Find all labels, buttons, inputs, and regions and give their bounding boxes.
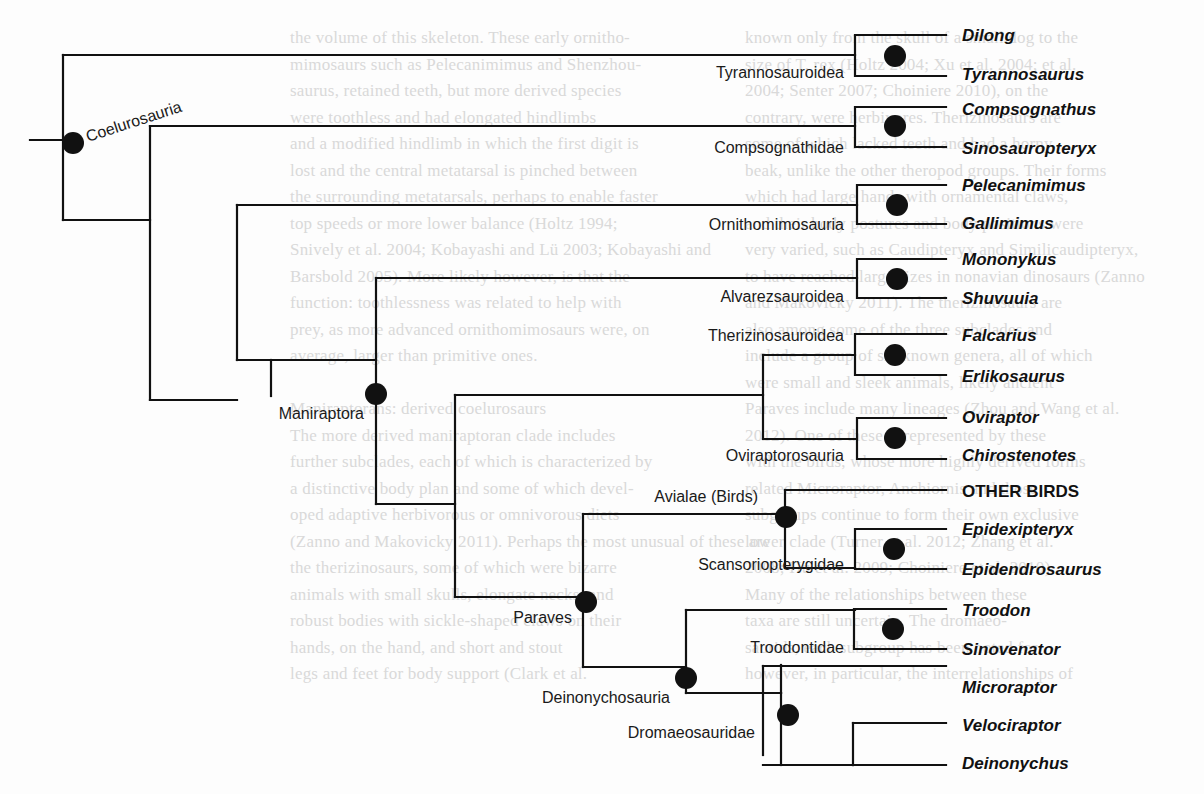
taxon-erlikosaurus: Erlikosaurus: [962, 367, 1065, 386]
taxon-epidexipteryx: Epidexipteryx: [962, 520, 1075, 539]
node-compsognathidae: [884, 115, 906, 137]
node-coelurosauria: [62, 132, 84, 154]
label-therizinosauroidea: Therizinosauroidea: [708, 327, 844, 344]
taxon-mononykus: Mononykus: [962, 250, 1056, 269]
node-deinonychosauria: [675, 667, 697, 689]
taxon-oviraptor: Oviraptor: [962, 408, 1040, 427]
taxon-chirostenotes: Chirostenotes: [962, 446, 1076, 465]
label-deinonychosauria: Deinonychosauria: [542, 689, 670, 706]
taxon-troodon: Troodon: [962, 601, 1031, 620]
label-dromaeosauridae: Dromaeosauridae: [628, 724, 755, 741]
label-alvarezsauroidea: Alvarezsauroidea: [720, 288, 844, 305]
label-coelurosauria: Coelurosauria: [84, 98, 184, 145]
taxon-microraptor: Microraptor: [962, 678, 1058, 697]
node-therizinosauroidea: [884, 344, 906, 366]
taxon-velociraptor: Velociraptor: [962, 716, 1062, 735]
cladogram-figure: the volume of this skeleton. These early…: [0, 0, 1204, 794]
node-maniraptora: [365, 383, 387, 405]
taxon-tyrannosaurus: Tyrannosaurus: [962, 65, 1084, 84]
label-avialae: Avialae (Birds): [654, 488, 758, 505]
taxon-epidendrosaurus: Epidendrosaurus: [962, 560, 1102, 579]
node-dromaeosauridae: [777, 704, 799, 726]
taxon-pelecanimimus: Pelecanimimus: [962, 176, 1086, 195]
taxon-labels: Dilong Tyrannosaurus Compsognathus Sinos…: [962, 26, 1102, 773]
clade-labels: Coelurosauria Tyrannosauroidea Compsogna…: [84, 64, 844, 741]
taxon-compsognathus: Compsognathus: [962, 100, 1096, 119]
taxon-other-birds: OTHER BIRDS: [962, 482, 1079, 501]
node-paraves: [575, 591, 597, 613]
node-troodontidae: [882, 618, 904, 640]
label-scansoriopterygidae: Scansoriopterygidae: [698, 556, 844, 573]
taxon-sinosauropteryx: Sinosauropteryx: [962, 139, 1098, 158]
cladogram-tree: Coelurosauria Tyrannosauroidea Compsogna…: [0, 0, 1204, 794]
taxon-gallimimus: Gallimimus: [962, 214, 1054, 233]
label-oviraptorosauria: Oviraptorosauria: [726, 447, 844, 464]
label-tyrannosauroidea: Tyrannosauroidea: [716, 64, 844, 81]
label-troodontidae: Troodontidae: [750, 639, 844, 656]
label-paraves: Paraves: [513, 609, 572, 626]
taxon-shuvuuia: Shuvuuia: [962, 289, 1039, 308]
label-maniraptora: Maniraptora: [279, 405, 364, 422]
node-avialae: [775, 506, 797, 528]
node-ornithomimosauria: [886, 194, 908, 216]
node-oviraptorosauria: [884, 427, 906, 449]
taxon-dilong: Dilong: [962, 26, 1015, 45]
label-ornithomimosauria: Ornithomimosauria: [709, 216, 844, 233]
taxon-deinonychus: Deinonychus: [962, 754, 1069, 773]
node-tyrannosauroidea: [884, 45, 906, 67]
node-alvarezsauroidea: [886, 268, 908, 290]
node-scansoriopterygidae: [883, 538, 905, 560]
taxon-sinovenator: Sinovenator: [962, 640, 1062, 659]
taxon-falcarius: Falcarius: [962, 326, 1037, 345]
label-compsognathidae: Compsognathidae: [714, 139, 844, 156]
